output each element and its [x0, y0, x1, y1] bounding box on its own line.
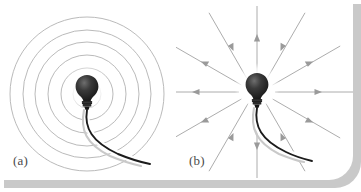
- panel-a: (a): [0, 0, 180, 180]
- light-ray: [176, 89, 239, 95]
- figure-card: (a): [0, 0, 353, 180]
- panel-b: (b): [176, 0, 356, 180]
- panel-a-label: (a): [13, 153, 28, 169]
- power-cord-shadow: [253, 108, 304, 162]
- ray-arrowhead: [192, 89, 200, 95]
- light-ray: [275, 89, 353, 95]
- figure-root: (a): [0, 0, 361, 192]
- light-ray: [209, 104, 248, 172]
- panel-b-label: (b): [189, 153, 205, 169]
- ray-arrowhead: [254, 34, 260, 42]
- ray-arrowhead: [254, 143, 260, 151]
- ray-arrowhead: [315, 89, 323, 95]
